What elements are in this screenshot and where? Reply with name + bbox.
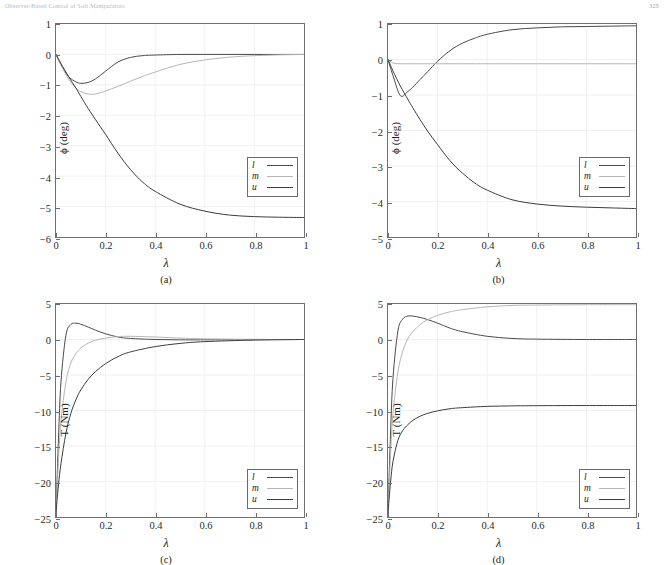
legend-swatch-m bbox=[599, 488, 625, 489]
legend-label: m bbox=[584, 171, 596, 182]
legend-swatch-m bbox=[267, 488, 293, 489]
x-tick-mark bbox=[538, 233, 539, 237]
legend-label: u bbox=[584, 494, 596, 505]
y-tick-mark bbox=[56, 412, 60, 413]
x-tick-mark bbox=[306, 513, 307, 517]
x-tick-mark bbox=[638, 513, 639, 517]
plot-area-b: ϕ (deg) 10−1−2−3−4−500.20.40.60.81lmu bbox=[387, 23, 637, 238]
y-tick-label: −4 bbox=[372, 198, 383, 209]
page-number: 325 bbox=[649, 2, 659, 9]
plot-area-c: T (Nm) 50−5−10−15−20−2500.20.40.60.81lmu bbox=[55, 303, 305, 518]
series-line-m bbox=[56, 54, 304, 94]
legend-item-u: u bbox=[584, 494, 625, 505]
y-tick-label: −6 bbox=[40, 234, 51, 245]
x-tick-label: 0.6 bbox=[531, 240, 544, 251]
y-tick-label: −5 bbox=[372, 234, 383, 245]
x-tick-mark bbox=[156, 233, 157, 237]
plot-svg-b bbox=[388, 24, 636, 237]
subfigure-caption-b: (b) bbox=[492, 274, 504, 285]
y-tick-mark bbox=[56, 483, 60, 484]
y-tick-mark bbox=[56, 85, 60, 86]
y-tick-mark bbox=[388, 132, 392, 133]
y-tick-label: −3 bbox=[372, 162, 383, 173]
y-tick-label: −1 bbox=[40, 80, 51, 91]
x-tick-mark bbox=[588, 513, 589, 517]
legend-label: l bbox=[252, 160, 264, 171]
y-axis-label-b: ϕ (deg) bbox=[379, 132, 411, 144]
y-tick-label: 1 bbox=[46, 19, 51, 30]
legend-label: m bbox=[584, 483, 596, 494]
y-tick-label: −1 bbox=[372, 90, 383, 101]
x-tick-label: 0.6 bbox=[199, 240, 212, 251]
y-tick-mark bbox=[56, 116, 60, 117]
x-tick-label: 0.4 bbox=[149, 240, 162, 251]
x-tick-label: 0.4 bbox=[149, 520, 162, 531]
subfigure-caption-a: (a) bbox=[160, 274, 172, 285]
x-tick-mark bbox=[388, 233, 389, 237]
x-tick-label: 0 bbox=[385, 240, 390, 251]
legend: lmu bbox=[247, 469, 298, 509]
legend-swatch-l bbox=[267, 165, 293, 166]
y-tick-mark bbox=[56, 376, 60, 377]
legend-label: m bbox=[252, 171, 264, 182]
x-tick-label: 0.2 bbox=[431, 520, 444, 531]
y-tick-mark bbox=[388, 24, 392, 25]
legend-item-u: u bbox=[252, 494, 293, 505]
y-tick-mark bbox=[388, 203, 392, 204]
legend-swatch-l bbox=[599, 165, 625, 166]
y-tick-label: −25 bbox=[367, 514, 383, 525]
x-axis-label-a: λ bbox=[163, 256, 168, 271]
x-tick-mark bbox=[156, 513, 157, 517]
legend-item-u: u bbox=[252, 182, 293, 193]
x-tick-mark bbox=[438, 513, 439, 517]
x-tick-label: 0.2 bbox=[99, 240, 112, 251]
x-tick-label: 1 bbox=[303, 520, 308, 531]
x-tick-label: 0.6 bbox=[199, 520, 212, 531]
x-tick-mark bbox=[638, 233, 639, 237]
y-tick-mark bbox=[56, 340, 60, 341]
x-axis-label-c: λ bbox=[163, 536, 168, 551]
y-tick-label: −5 bbox=[40, 370, 51, 381]
y-tick-label: −10 bbox=[35, 406, 51, 417]
x-axis-label-b: λ bbox=[496, 256, 501, 271]
x-tick-label: 1 bbox=[303, 240, 308, 251]
page-header: Observer-Based Control of Soft Manipulat… bbox=[0, 2, 665, 13]
x-tick-mark bbox=[56, 513, 57, 517]
x-tick-mark bbox=[106, 513, 107, 517]
x-tick-mark bbox=[256, 513, 257, 517]
legend-label: u bbox=[584, 182, 596, 193]
subfigure-caption-d: (d) bbox=[492, 554, 504, 565]
y-tick-mark bbox=[388, 447, 392, 448]
y-tick-mark bbox=[56, 208, 60, 209]
y-tick-mark bbox=[56, 304, 60, 305]
legend-item-l: l bbox=[584, 472, 625, 483]
x-tick-mark bbox=[488, 513, 489, 517]
legend-label: l bbox=[252, 472, 264, 483]
x-tick-mark bbox=[388, 513, 389, 517]
y-tick-label: 0 bbox=[378, 334, 383, 345]
y-tick-label: −2 bbox=[372, 126, 383, 137]
y-tick-label: −5 bbox=[372, 370, 383, 381]
legend-swatch-u bbox=[599, 187, 625, 188]
y-tick-label: 5 bbox=[378, 299, 383, 310]
y-tick-mark bbox=[56, 178, 60, 179]
legend-item-l: l bbox=[252, 472, 293, 483]
figure-grid: ϕ (deg) 10−1−2−3−4−5−600.20.40.60.81lmu … bbox=[0, 13, 665, 561]
x-axis-label-d: λ bbox=[496, 536, 501, 551]
y-tick-label: −3 bbox=[40, 141, 51, 152]
y-tick-label: −4 bbox=[40, 172, 51, 183]
x-tick-mark bbox=[256, 233, 257, 237]
x-tick-mark bbox=[538, 513, 539, 517]
x-tick-mark bbox=[588, 233, 589, 237]
x-tick-label: 0.6 bbox=[531, 520, 544, 531]
y-tick-label: 1 bbox=[378, 19, 383, 30]
legend: lmu bbox=[579, 157, 630, 197]
legend-label: u bbox=[252, 182, 264, 193]
y-tick-label: −25 bbox=[35, 514, 51, 525]
legend-item-l: l bbox=[252, 160, 293, 171]
legend-swatch-u bbox=[267, 187, 293, 188]
x-tick-label: 0 bbox=[53, 240, 58, 251]
x-tick-mark bbox=[56, 233, 57, 237]
y-tick-label: −15 bbox=[35, 442, 51, 453]
x-tick-label: 0.8 bbox=[249, 240, 262, 251]
